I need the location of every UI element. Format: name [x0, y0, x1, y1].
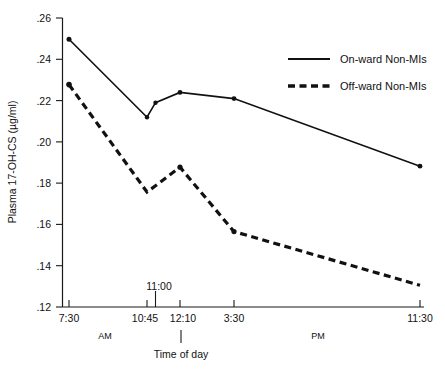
data-point-on-ward-0 — [67, 37, 72, 42]
plasma-17ohcs-line-chart: .26 .24 .22 .20 .18 .16 .14 .12 Plasma 1… — [0, 0, 445, 371]
data-point-on-ward-5 — [418, 164, 423, 169]
y-axis-title: Plasma 17-OH-CS (µg/ml) — [6, 101, 18, 224]
am-label: AM — [98, 331, 112, 341]
y-tick-label-5: .16 — [36, 218, 51, 230]
y-tick-label-1: .24 — [36, 53, 51, 65]
data-point-on-ward-1 — [145, 115, 149, 119]
y-tick-label-3: .20 — [36, 136, 51, 148]
data-point-on-ward-4 — [232, 96, 237, 101]
y-tick-label-4: .18 — [36, 177, 51, 189]
x-tick-label-2: 11:00 — [146, 280, 172, 292]
x-tick-label-3: 12:10 — [170, 312, 196, 324]
data-point-off-ward-0 — [66, 82, 72, 88]
x-tick-label-4: 3:30 — [224, 312, 245, 324]
data-point-off-ward-3 — [177, 165, 182, 170]
y-tick-label-6: .14 — [36, 260, 51, 272]
y-tick-label-0: .26 — [36, 12, 51, 24]
y-tick-label-2: .22 — [36, 95, 51, 107]
x-tick-label-1: 10:45 — [132, 312, 158, 324]
x-tick-label-5: 11:30 — [407, 312, 433, 324]
legend-label-off-ward: Off-ward Non-MIs — [340, 80, 427, 92]
legend-label-on-ward: On-ward Non-MIs — [340, 53, 427, 65]
pm-label: PM — [311, 331, 325, 341]
y-tick-label-7: .12 — [36, 301, 51, 313]
x-tick-label-0: 7:30 — [59, 312, 80, 324]
data-point-on-ward-2 — [153, 101, 157, 105]
data-point-on-ward-3 — [178, 90, 183, 95]
data-point-off-ward-4 — [231, 229, 236, 234]
chart-figure: .26 .24 .22 .20 .18 .16 .14 .12 Plasma 1… — [0, 0, 445, 371]
x-axis-title: Time of day — [154, 348, 209, 360]
